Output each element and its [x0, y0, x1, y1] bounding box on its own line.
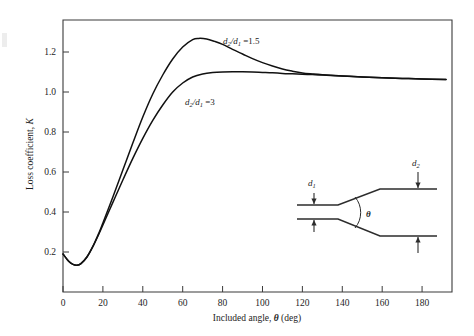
x-tick-label: 20 — [98, 298, 108, 308]
x-tick-label: 0 — [61, 298, 66, 308]
y-axis-title-prefix: Loss coefficient, — [25, 124, 35, 190]
y-axis-title: Loss coefficient, K — [25, 117, 35, 190]
d1-label: d1 — [308, 178, 316, 189]
diffuser-schematic: θ d1 d2 — [297, 158, 437, 253]
x-axis-title-suffix: (deg) — [279, 313, 301, 324]
d2-label: d2 — [412, 158, 421, 169]
d1-arrow-lower-head — [311, 220, 316, 225]
d2-arrow-upper-head — [415, 183, 420, 188]
d2-dimension: d2 — [412, 158, 421, 253]
x-tick-label: 100 — [255, 298, 270, 308]
y-tick-label: 0.2 — [44, 247, 56, 257]
y-axis-title-symbol: K — [25, 117, 35, 125]
x-tick-label: 140 — [335, 298, 350, 308]
d1-arrow-upper-head — [311, 199, 316, 204]
theta-angle-arc — [355, 197, 361, 228]
loss-coefficient-chart: 0.20.40.60.81.01.2 020406080100120140160… — [0, 0, 474, 336]
y-axis-ticks — [63, 52, 69, 252]
annotation-ratio-1p5-text: d2/d1 =1.5 — [223, 36, 260, 47]
y-tick-label: 1.2 — [44, 47, 56, 57]
x-axis-title: Included angle, θ (deg) — [213, 313, 301, 324]
x-tick-label: 40 — [138, 298, 148, 308]
d2-arrow-lower-head — [415, 237, 420, 242]
x-axis-ticks — [63, 286, 422, 292]
x-tick-label: 80 — [218, 298, 228, 308]
ratio-value: =1.5 — [243, 36, 260, 46]
y-tick-label: 0.8 — [44, 127, 56, 137]
diffuser-upper-wall — [297, 189, 437, 205]
y-tick-label: 0.4 — [44, 207, 56, 217]
x-tick-label: 180 — [415, 298, 430, 308]
annotation-ratio-1p5: d2/d1 =1.5 — [223, 36, 260, 47]
x-axis-tick-labels: 020406080100120140160180 — [61, 298, 430, 308]
y-axis-tick-labels: 0.20.40.60.81.01.2 — [44, 47, 56, 257]
svg-text:Included angle, θ (deg): Included angle, θ (deg) — [213, 313, 301, 324]
x-tick-label: 160 — [375, 298, 390, 308]
y-tick-label: 1.0 — [44, 87, 56, 97]
svg-text:Loss coefficient, K: Loss coefficient, K — [25, 117, 35, 190]
x-tick-label: 120 — [295, 298, 310, 308]
theta-label: θ — [366, 209, 371, 219]
annotation-ratio-3-text: d2/d1 =3 — [185, 97, 215, 108]
x-axis-title-prefix: Included angle, — [213, 313, 274, 323]
y-tick-label: 0.6 — [44, 167, 56, 177]
annotation-ratio-3: d2/d1 =3 — [185, 97, 215, 108]
diffuser-lower-wall — [297, 219, 437, 236]
ratio3-value: =3 — [205, 97, 215, 107]
figure-container: 0.20.40.60.81.01.2 020406080100120140160… — [0, 0, 474, 336]
data-curves — [63, 38, 446, 265]
x-tick-label: 60 — [178, 298, 188, 308]
